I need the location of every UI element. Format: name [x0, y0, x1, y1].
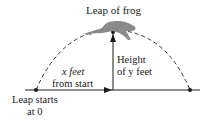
horizontal-label-line2: from start: [52, 78, 93, 90]
start-label-line1: Leap starts: [12, 94, 58, 106]
start-point: [34, 88, 38, 92]
horizontal-label-line1: x feet: [62, 66, 84, 78]
x-arrow-head: [104, 87, 112, 93]
vertical-label-line2: of y feet: [117, 66, 152, 78]
vertical-label-line1: Height: [117, 54, 146, 66]
start-label-line2: at 0: [27, 106, 42, 118]
diagram-title: Leap of frog: [86, 4, 141, 16]
frog-icon: [84, 21, 136, 40]
height-arrow-head: [110, 34, 116, 42]
end-point: [188, 88, 192, 92]
